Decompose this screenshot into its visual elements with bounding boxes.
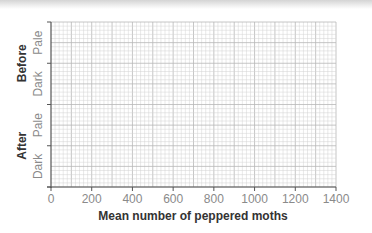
category-label: Dark: [31, 70, 45, 96]
x-tick-labels: 0200400600800100012001400: [48, 192, 350, 206]
group-label-before: Before: [15, 44, 29, 82]
x-tick-label: 1200: [282, 192, 309, 206]
x-tick-label: 600: [163, 192, 183, 206]
x-tick-label: 1000: [241, 192, 268, 206]
group-labels: BeforeAfter: [15, 44, 29, 160]
x-axis-ticks: [51, 187, 336, 191]
x-tick-label: 400: [122, 192, 142, 206]
x-axis-title: Mean number of peppered moths: [98, 209, 288, 223]
category-labels: PaleDarkPaleDark: [31, 30, 45, 179]
group-label-after: After: [15, 131, 29, 159]
x-tick-label: 1400: [323, 192, 350, 206]
x-tick-label: 200: [82, 192, 102, 206]
category-label: Pale: [31, 113, 45, 137]
x-tick-label: 800: [204, 192, 224, 206]
graph-paper-grid: [51, 22, 336, 187]
blank-bar-chart: 0200400600800100012001400 PaleDarkPaleDa…: [0, 0, 372, 233]
x-tick-label: 0: [48, 192, 55, 206]
category-label: Dark: [31, 153, 45, 179]
category-label: Pale: [31, 30, 45, 54]
